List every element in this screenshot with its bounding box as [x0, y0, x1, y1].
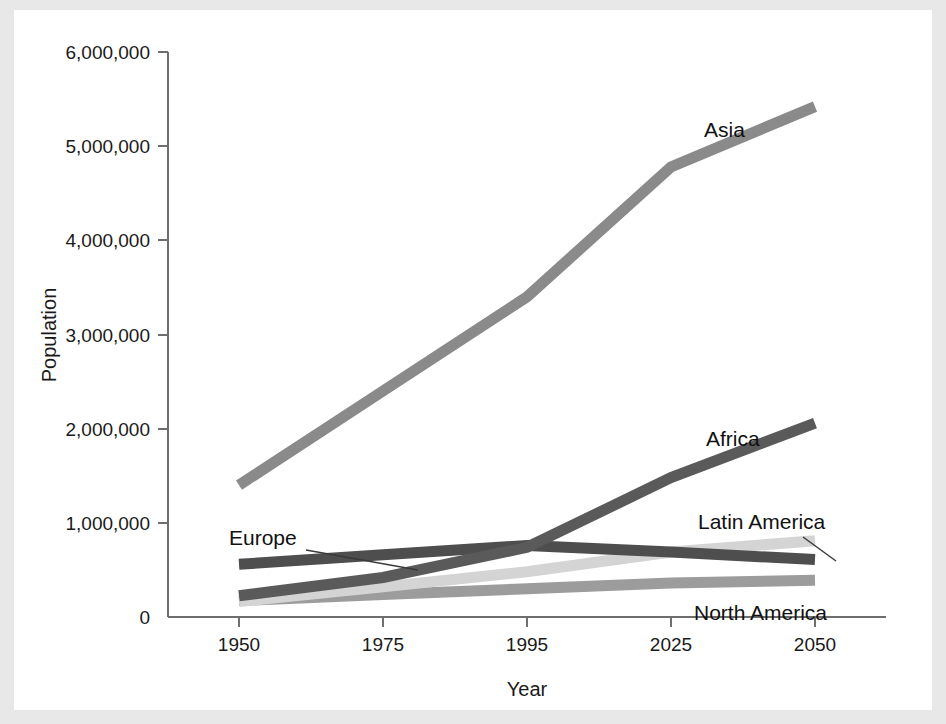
population-line-chart: 6,000,000 5,000,000 4,000,000 3,000,000 …	[14, 10, 932, 710]
x-axis-title: Year	[507, 678, 548, 700]
y-tick-label-5000000: 5,000,000	[65, 136, 150, 157]
chart-figure: 6,000,000 5,000,000 4,000,000 3,000,000 …	[14, 10, 932, 710]
series-label-europe: Europe	[229, 526, 297, 549]
x-tick-label-2050: 2050	[794, 634, 836, 655]
series-label-africa: Africa	[706, 427, 760, 450]
x-tick-label-1995: 1995	[506, 634, 548, 655]
y-tick-label-6000000: 6,000,000	[65, 42, 150, 63]
y-tick-label-0: 0	[139, 607, 150, 628]
x-tick-label-2025: 2025	[650, 634, 692, 655]
screenshot-root: 6,000,000 5,000,000 4,000,000 3,000,000 …	[0, 0, 946, 724]
y-tick-label-3000000: 3,000,000	[65, 325, 150, 346]
y-tick-label-1000000: 1,000,000	[65, 513, 150, 534]
y-axis-ticks	[158, 52, 168, 523]
series-label-asia: Asia	[704, 118, 745, 141]
series-label-north-america: North America	[694, 601, 827, 624]
series-label-latin-america: Latin America	[698, 510, 826, 533]
x-tick-label-1950: 1950	[218, 634, 260, 655]
x-tick-label-1975: 1975	[362, 634, 404, 655]
y-axis-title: Population	[38, 288, 60, 383]
y-tick-label-2000000: 2,000,000	[65, 419, 150, 440]
y-tick-label-4000000: 4,000,000	[65, 230, 150, 251]
